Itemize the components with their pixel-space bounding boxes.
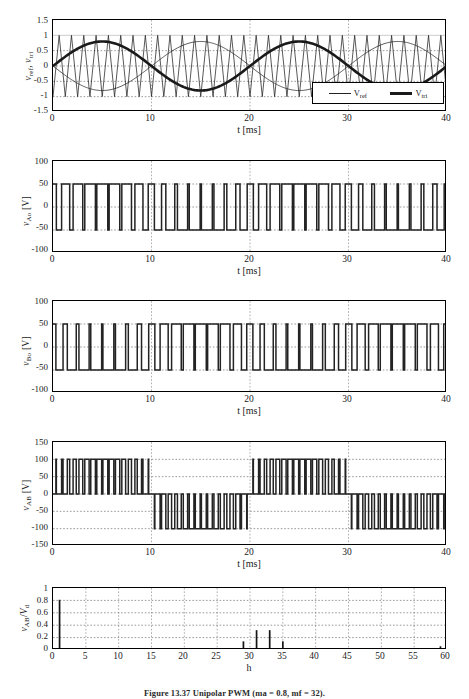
- ytick-vbo-m50: -50: [14, 362, 48, 372]
- ytick-sp-06: 0.6: [18, 607, 48, 617]
- ytick-3: 0.5: [22, 45, 48, 55]
- ytick-vao-0: 0: [18, 200, 48, 210]
- xtick-vbo-20: 20: [237, 394, 261, 404]
- ytick-vbo-0: 0: [18, 340, 48, 350]
- xtick-h-10: 10: [107, 651, 129, 661]
- xtick-vbo-30: 30: [335, 394, 359, 404]
- xtick-0: 0: [40, 113, 64, 123]
- xtick-vao-0: 0: [40, 254, 64, 264]
- xtick-vao-10: 10: [138, 254, 162, 264]
- axis-label-time-2: t [ms]: [189, 265, 309, 276]
- ytick-vbo-m100: -100: [14, 384, 48, 394]
- axis-label-time-4: t [ms]: [189, 558, 309, 569]
- axis-label-harmonic-order: h: [189, 662, 309, 673]
- legend-item-vtri: Vtri: [390, 88, 427, 99]
- ytick-vbo-100: 100: [18, 296, 48, 306]
- xtick-vab-30: 30: [335, 547, 359, 557]
- ytick-1: 1.5: [22, 15, 48, 25]
- xtick-h-60: 60: [434, 651, 456, 661]
- ytick-5: -0.5: [18, 75, 48, 85]
- figure-unipolar-pwm: vref, vtri 1.5 1 0.5 0 -0.5 -1 -1.5: [0, 0, 469, 699]
- xtick-vab-40: 40: [434, 547, 458, 557]
- ytick-4: 0: [22, 60, 48, 70]
- ytick-sp-02: 0.2: [18, 631, 48, 641]
- axis-label-time-1: t [ms]: [189, 124, 309, 135]
- xtick-40: 40: [434, 113, 458, 123]
- xtick-h-5: 5: [74, 651, 96, 661]
- xtick-vbo-0: 0: [40, 394, 64, 404]
- ytick-2: 1: [22, 30, 48, 40]
- xtick-30: 30: [335, 113, 359, 123]
- xtick-h-0: 0: [41, 651, 63, 661]
- plot-area-vao: [52, 160, 446, 252]
- legend-item-vref: Vref: [329, 88, 367, 99]
- xtick-10: 10: [138, 113, 162, 123]
- ytick-vbo-50: 50: [18, 318, 48, 328]
- ytick-vao-m100: -100: [14, 244, 48, 254]
- axis-label-time-3: t [ms]: [189, 405, 309, 416]
- ytick-vao-m50: -50: [14, 222, 48, 232]
- xtick-vab-0: 0: [40, 547, 64, 557]
- xtick-vao-40: 40: [434, 254, 458, 264]
- xtick-h-35: 35: [271, 651, 293, 661]
- ytick-sp-1: 1: [20, 583, 48, 593]
- xtick-h-55: 55: [402, 651, 424, 661]
- ytick-vab-m100: -100: [14, 522, 48, 532]
- ytick-vab-150: 150: [18, 437, 48, 447]
- xtick-20: 20: [237, 113, 261, 123]
- ytick-sp-08: 0.8: [18, 595, 48, 605]
- xtick-vbo-40: 40: [434, 394, 458, 404]
- xtick-h-25: 25: [205, 651, 227, 661]
- ytick-vab-100: 100: [18, 454, 48, 464]
- xtick-h-20: 20: [172, 651, 194, 661]
- xtick-h-50: 50: [369, 651, 391, 661]
- ytick-vab-0: 0: [18, 488, 48, 498]
- plot-area-vab: [52, 441, 446, 545]
- xtick-vbo-10: 10: [138, 394, 162, 404]
- xtick-h-45: 45: [336, 651, 358, 661]
- xtick-vab-10: 10: [138, 547, 162, 557]
- ytick-vao-50: 50: [18, 178, 48, 188]
- xtick-vao-30: 30: [335, 254, 359, 264]
- xtick-vao-20: 20: [237, 254, 261, 264]
- plot-area-spectrum: [52, 587, 446, 649]
- xtick-vab-20: 20: [237, 547, 261, 557]
- ytick-vao-100: 100: [18, 156, 48, 166]
- legend-line-thick-icon: [390, 92, 412, 95]
- legend-label-vtri: Vtri: [415, 88, 427, 99]
- legend-modulation: Vref Vtri: [312, 82, 444, 104]
- ytick-vab-50: 50: [18, 471, 48, 481]
- figure-caption: Figure 13.37 Unipolar PWM (ma = 0.8, mf …: [0, 688, 469, 698]
- xtick-h-30: 30: [238, 651, 260, 661]
- xtick-h-40: 40: [303, 651, 325, 661]
- plot-area-vbo: [52, 300, 446, 392]
- ytick-vab-m50: -50: [14, 505, 48, 515]
- legend-line-thin-icon: [329, 93, 351, 94]
- legend-label-vref: Vref: [354, 88, 367, 99]
- ytick-sp-04: 0.4: [18, 619, 48, 629]
- xtick-h-15: 15: [140, 651, 162, 661]
- ytick-6: -1: [18, 90, 48, 100]
